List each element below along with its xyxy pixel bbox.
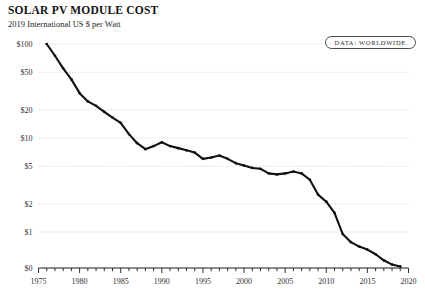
data-point [210,156,213,159]
y-tick-label: $20 [21,106,33,115]
x-axis-ticks [39,268,409,273]
data-point [119,121,122,124]
x-axis-labels: 1975198019851990199520002005201020152020 [31,277,417,286]
y-tick-label: $1 [25,228,33,237]
data-point [111,116,114,119]
data-point [152,145,155,148]
data-point [95,104,98,107]
data-point [86,100,89,103]
data-point [325,200,328,203]
data-point [169,145,172,148]
data-point [391,263,394,266]
data-point [70,78,73,81]
data-point [202,158,205,161]
data-point [160,141,163,144]
data-point [185,149,188,152]
data-point [226,158,229,161]
data-point [374,253,377,256]
data-point [234,162,237,165]
data-point [128,133,131,136]
x-tick-label: 1985 [113,277,129,286]
data-point [177,147,180,150]
data-point [300,172,303,175]
y-tick-label: $50 [21,68,33,77]
data-point [218,154,221,157]
data-point [276,173,279,176]
y-tick-label: $100 [17,40,33,49]
data-point [317,193,320,196]
x-tick-label: 2010 [318,277,334,286]
chart-plot-area: $100$50$20$10$5$2$1$0 197519801985199019… [0,0,425,295]
data-point [54,54,57,57]
data-point [62,67,65,70]
data-point [243,164,246,167]
x-tick-label: 2000 [236,277,252,286]
x-tick-label: 1980 [72,277,88,286]
data-point [284,172,287,175]
y-tick-label: $2 [25,200,33,209]
data-point [78,92,81,95]
y-axis-labels: $100$50$20$10$5$2$1$0 [17,40,33,273]
y-tick-label: $5 [25,162,33,171]
data-point [366,248,369,251]
data-point [144,148,147,151]
data-point [350,241,353,244]
data-point [333,211,336,214]
data-point [399,265,402,268]
data-point [259,167,262,170]
data-point [308,178,311,181]
data-point [292,170,295,173]
data-point [251,167,254,170]
x-tick-label: 1975 [31,277,47,286]
data-point [136,142,139,145]
y-tick-label: $0 [25,264,33,273]
data-point [193,151,196,154]
data-point [267,172,270,175]
x-tick-label: 2020 [401,277,417,286]
solar-pv-cost-chart: SOLAR PV MODULE COST 2019 International … [0,0,425,295]
data-point [103,110,106,113]
x-tick-label: 1995 [195,277,211,286]
data-point [382,259,385,262]
y-tick-label: $10 [21,134,33,143]
gridlines [39,44,409,232]
data-series-points [45,43,401,268]
x-tick-label: 2005 [277,277,293,286]
data-point [358,245,361,248]
data-point [45,43,48,46]
x-tick-label: 2015 [359,277,375,286]
x-tick-label: 1990 [154,277,170,286]
data-point [341,233,344,236]
data-series-line [47,44,401,266]
